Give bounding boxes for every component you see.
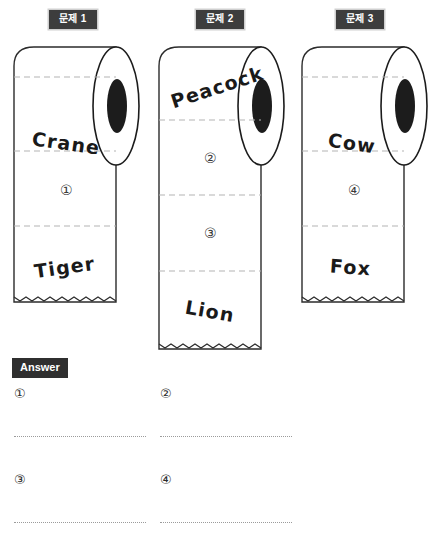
roll-1-core-hole: [107, 79, 127, 133]
problem-badge-3: 문제 3: [337, 11, 383, 28]
answer-slot-4-line[interactable]: [160, 522, 292, 523]
roll-1: Crane ① Tiger: [12, 44, 142, 319]
answer-slot-1-line[interactable]: [14, 436, 146, 437]
roll-1-drawing: [12, 44, 142, 319]
roll-1-sheet-label-1: ①: [60, 182, 73, 198]
roll-2-core-hole: [252, 79, 272, 133]
worksheet-canvas: 문제 1 문제 2 문제 3 Crane ① Tiger: [0, 0, 446, 555]
problem-badge-2: 문제 2: [197, 11, 243, 28]
answer-slot-3-label: ③: [14, 472, 26, 487]
problem-badge-1: 문제 1: [50, 11, 96, 28]
roll-2-sheet-label-2: ②: [204, 150, 217, 166]
roll-3-core-hole: [395, 79, 415, 133]
roll-2-sheet-label-3: ③: [204, 225, 217, 241]
answer-slot-1-label: ①: [14, 386, 26, 401]
answer-slot-4-label: ④: [160, 472, 172, 487]
answer-slot-2-line[interactable]: [160, 436, 292, 437]
roll-3-sheet-label-fox: Fox: [329, 255, 372, 280]
roll-3: Cow ④ Fox: [300, 44, 430, 319]
roll-3-sheet-label-4: ④: [348, 182, 361, 198]
roll-2: Peacock ② ③ Lion: [157, 44, 287, 364]
answer-slot-2-label: ②: [160, 386, 172, 401]
answer-badge: Answer: [12, 358, 68, 378]
answer-slot-3-line[interactable]: [14, 522, 146, 523]
